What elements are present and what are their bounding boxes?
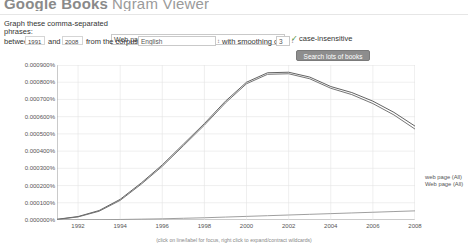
y-axis-tick-label: 0.000300% [25,165,55,171]
case-insensitive-checkbox[interactable]: ✓case-insensitive [291,34,352,43]
chart-svg [57,65,415,220]
x-axis-tick-label: 2000 [233,223,261,229]
corpus-select[interactable]: English [138,36,216,46]
x-axis-tick-label: 1994 [106,223,134,229]
page-title: Google BooksNgram Viewer [4,0,209,11]
year-end-input[interactable]: 2008 [62,36,83,45]
phrases-label: phrases: [4,27,33,36]
y-axis-tick-label: 0.000100% [25,200,55,206]
x-axis-tick-label: 1998 [190,223,218,229]
x-axis-tick-label: 2006 [359,223,387,229]
and-label: and [48,37,61,46]
y-axis-tick-label: 0.000600% [25,114,55,120]
smoothing-chevron-icon[interactable]: ↕ [291,36,294,46]
smoothing-select[interactable]: 3 [276,36,290,46]
legend-item-web-page-upper[interactable]: Web page (All) [425,181,463,188]
y-axis-tick-label: 0.000200% [25,183,55,189]
query-form: Graph these comma-separated phrases: Web… [0,16,468,50]
brand-google-books: Google Books [4,0,108,11]
y-axis-tick-label: 0.000700% [25,96,55,102]
x-axis-tick-label: 2008 [401,223,429,229]
legend-item-web-page-lower[interactable]: web page (All) [425,174,462,181]
x-axis-tick-label: 1992 [64,223,92,229]
y-axis-labels: 0.000900%0.000800%0.000700%0.000600%0.00… [0,65,55,220]
brand-ngram-viewer: Ngram Viewer [112,0,209,11]
y-axis-tick-label: 0.000400% [25,148,55,154]
case-insensitive-label: case-insensitive [299,34,352,43]
y-axis-tick-label: 0.000500% [25,131,55,137]
chart-caption: (click on line/label for focus, right cl… [0,237,468,243]
ngram-chart: 0.000900%0.000800%0.000700%0.000600%0.00… [0,55,468,247]
y-axis-tick-label: 0.000900% [25,62,55,68]
x-axis-tick-label: 1996 [148,223,176,229]
x-axis-tick-label: 2002 [275,223,303,229]
x-axis-tick-label: 2004 [317,223,345,229]
y-axis-tick-label: 0.000000% [25,217,55,223]
smoothing-label: with smoothing of [222,37,280,46]
y-axis-tick-label: 0.000800% [25,79,55,85]
plot-area [57,65,415,220]
corpus-label: from the corpus [86,37,138,46]
ngram-viewer-page: Google BooksNgram Viewer Graph these com… [0,0,468,247]
year-start-input[interactable]: 1991 [25,36,45,45]
header-divider [0,14,468,15]
corpus-chevron-icon[interactable]: ↕ [217,36,220,46]
